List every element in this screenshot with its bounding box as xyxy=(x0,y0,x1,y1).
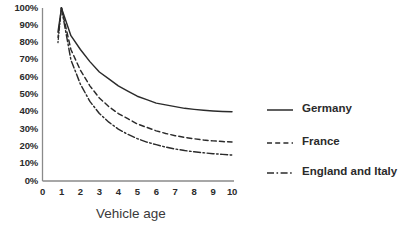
x-axis-title: Vehicle age xyxy=(96,206,166,221)
x-tick-1: 1 xyxy=(53,186,69,197)
x-tick-0: 0 xyxy=(35,186,51,197)
legend-label-france: France xyxy=(302,135,340,147)
x-tick-9: 9 xyxy=(205,186,221,197)
depreciation-line-chart: 100%90%80%70%60%50%40%30%20%10%0% 012345… xyxy=(0,0,414,238)
legend-swatch-dashed xyxy=(267,137,293,149)
legend-swatch-dashdot xyxy=(267,167,293,179)
legend-swatch-solid xyxy=(267,104,293,116)
x-tick-5: 5 xyxy=(129,186,145,197)
y-tick-10: 10% xyxy=(0,157,38,168)
x-tick-10: 10 xyxy=(224,186,240,197)
y-tick-40: 40% xyxy=(0,105,38,116)
x-tick-8: 8 xyxy=(186,186,202,197)
y-tick-50: 50% xyxy=(0,88,38,99)
x-tick-4: 4 xyxy=(110,186,126,197)
x-tick-3: 3 xyxy=(91,186,107,197)
series-line-france xyxy=(61,8,232,142)
y-tick-20: 20% xyxy=(0,140,38,151)
legend-label-england-and-italy: England and Italy xyxy=(302,165,397,177)
y-tick-100: 100% xyxy=(0,2,38,13)
chart-plot-area xyxy=(0,0,414,238)
x-tick-6: 6 xyxy=(148,186,164,197)
x-tick-2: 2 xyxy=(72,186,88,197)
y-tick-80: 80% xyxy=(0,36,38,47)
y-tick-30: 30% xyxy=(0,123,38,134)
y-tick-70: 70% xyxy=(0,53,38,64)
legend-label-germany: Germany xyxy=(302,102,352,114)
y-tick-60: 60% xyxy=(0,71,38,82)
x-tick-7: 7 xyxy=(167,186,183,197)
y-tick-90: 90% xyxy=(0,19,38,30)
y-tick-0: 0% xyxy=(0,175,38,186)
